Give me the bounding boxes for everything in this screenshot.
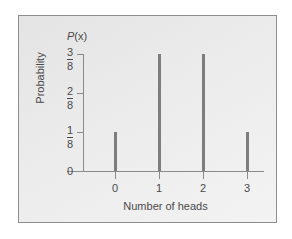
fraction-numerator: 2: [67, 86, 73, 97]
fraction-numerator: 3: [67, 47, 73, 58]
x-tick-mark-2: [203, 172, 204, 179]
p-args: (x): [74, 30, 87, 42]
x-tick-label-0: 0: [105, 182, 125, 194]
x-tick-mark-3: [247, 172, 248, 179]
fraction-denominator: 8: [67, 139, 73, 150]
x-axis-line: [67, 171, 264, 172]
fraction-denominator: 8: [67, 61, 73, 72]
x-tick-mark-0: [115, 172, 116, 179]
fraction-denominator: 8: [67, 100, 73, 111]
data-spike-1: [158, 54, 161, 171]
fraction-3-8: 3 8: [67, 47, 73, 72]
plot-area: P(x) Probability 3 8 2: [19, 16, 276, 222]
figure-container: P(x) Probability 3 8 2: [0, 0, 292, 239]
y-axis-line: [83, 54, 84, 172]
y-tick-label-0: 0: [45, 166, 73, 177]
data-spike-2: [202, 54, 205, 171]
fraction-1-8: 1 8: [67, 125, 73, 150]
x-tick-label-1: 1: [149, 182, 169, 194]
y-tick-mark-3-8: [77, 54, 84, 55]
y-tick-mark-2-8: [77, 93, 84, 94]
x-axis-title: Number of heads: [67, 200, 264, 212]
data-spike-3: [246, 132, 249, 171]
y-tick-label-3-8: 3 8: [45, 47, 73, 72]
fraction-numerator: 1: [67, 125, 73, 136]
chart-panel: P(x) Probability 3 8 2: [18, 15, 277, 223]
y-tick-label-1-8: 1 8: [45, 125, 73, 150]
y-tick-mark-1-8: [77, 132, 84, 133]
y-axis-symbol-label: P(x): [67, 30, 87, 42]
data-spike-0: [114, 132, 117, 171]
x-tick-label-3: 3: [237, 182, 257, 194]
y-tick-label-2-8: 2 8: [45, 86, 73, 111]
fraction-2-8: 2 8: [67, 86, 73, 111]
x-tick-mark-1: [159, 172, 160, 179]
x-tick-label-2: 2: [193, 182, 213, 194]
